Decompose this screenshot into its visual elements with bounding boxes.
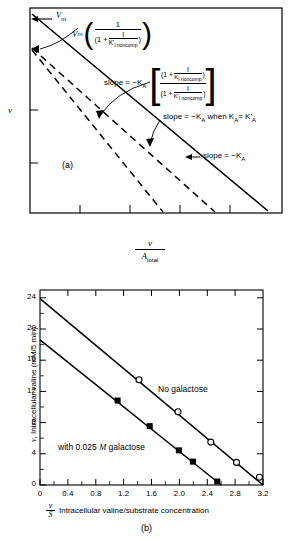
label-with-galactose: with 0.025 M galactose <box>58 442 145 452</box>
data-point <box>136 377 142 383</box>
panel-b-right-ticks <box>257 298 263 454</box>
x-tick-label: 2.4 <box>197 489 217 498</box>
panel-a-frame <box>30 8 282 213</box>
vm-denominator: (1 + I K'I noncomp ) <box>95 30 142 48</box>
inner-denominator: K'I noncomp <box>109 39 138 48</box>
slope-when-leader-head <box>146 138 154 147</box>
series-no-galactose-line <box>40 299 263 485</box>
slope-main-bar <box>160 83 205 84</box>
data-point <box>147 424 152 429</box>
bracket-top-fraction: I KI noncomp <box>174 66 201 82</box>
data-point <box>215 479 220 484</box>
panel-a-inner-caption: (a) <box>62 160 73 170</box>
panel-a: Vm Vm ( 1 (1 + I K'I noncomp ) ) <box>0 0 293 280</box>
bracket-bot-fraction: I K'I noncomp <box>174 85 203 101</box>
bracket-close: ] <box>206 69 217 99</box>
slope-plain-leader <box>185 154 200 160</box>
x-tick-label: 1.6 <box>142 489 162 498</box>
data-point <box>175 409 181 415</box>
bracket-bot-den: K'I noncomp <box>174 93 203 101</box>
x-tick-label: 0.8 <box>86 489 106 498</box>
vm-label: Vm <box>56 10 66 22</box>
panel-a-ylabel: v <box>8 105 12 115</box>
x-tick-label: 1.2 <box>114 489 134 498</box>
paren-open-big: ( <box>84 22 94 46</box>
panel-b-y-major-ticks <box>40 298 46 485</box>
slope-plain-annotation: slope = −KA <box>203 151 245 162</box>
data-point <box>234 459 240 465</box>
vs-fraction: v S <box>46 502 55 519</box>
panel-b-frame <box>40 290 263 485</box>
slope-bracket-text: slope = −KA <box>104 78 146 89</box>
bracket-leader-head <box>96 110 104 119</box>
panel-b-top-ticks <box>68 290 235 296</box>
x-tick-label: 0.4 <box>58 489 78 498</box>
data-point <box>257 474 263 480</box>
data-point <box>176 448 181 453</box>
data-point <box>208 439 214 445</box>
data-point <box>190 459 195 464</box>
panel-b: 24 20 16 12 8 4 0 0 0.4 0.8 1.2 1.6 2.0 … <box>0 280 293 541</box>
x-tick-label: 2.0 <box>169 489 189 498</box>
label-no-galactose: No galactose <box>158 384 208 394</box>
bracket-bottom: (1 + I K'I noncomp ) <box>160 85 205 101</box>
slope-big-fraction: (1 + I KI noncomp ) (1 + I K'I noncomp <box>160 66 205 101</box>
figure-container: Vm Vm ( 1 (1 + I K'I noncomp ) ) <box>0 0 293 541</box>
vm-fraction-equation: Vm ( 1 (1 + I K'I noncomp ) ) <box>72 20 152 48</box>
slope-when-annotation: slope = −KA when KA= K'A <box>163 112 256 123</box>
panel-a-xlabel: v Atotal <box>135 238 165 263</box>
panel-b-xlabel: v S Intracellular valine/substrate conce… <box>46 502 209 519</box>
inner-fraction: I K'I noncomp <box>109 31 138 48</box>
xlabel-denominator: Atotal <box>142 251 159 263</box>
bracket-top: (1 + I KI noncomp ) <box>161 66 205 82</box>
panel-b-ylabel: v, Intracellular valine (mM/5 min) <box>29 295 38 475</box>
panel-b-x-major-ticks <box>40 479 263 485</box>
paren-close-big: ) <box>142 22 152 46</box>
xlabel-fraction-bar <box>135 249 165 250</box>
slope-bracket-annotation: slope = −KA [ (1 + I KI noncomp ) (1 + <box>104 66 217 101</box>
bracket-open: [ <box>149 69 160 99</box>
x-tick-label: 2.8 <box>225 489 245 498</box>
panel-a-y-ticks <box>30 110 38 163</box>
bracket-top-den: KI noncomp <box>174 74 201 82</box>
vm-fraction: 1 (1 + I K'I noncomp ) <box>95 20 142 48</box>
panel-b-xlabel-text: Intracellular valine/substrate concentra… <box>59 506 209 515</box>
y-tick-label: 0 <box>20 479 36 488</box>
x-tick-label: 0 <box>30 489 50 498</box>
panel-a-x-ticks <box>80 205 230 213</box>
x-tick-label: 3.2 <box>253 489 273 498</box>
data-point <box>115 398 120 403</box>
panel-b-caption: (b) <box>0 523 293 533</box>
